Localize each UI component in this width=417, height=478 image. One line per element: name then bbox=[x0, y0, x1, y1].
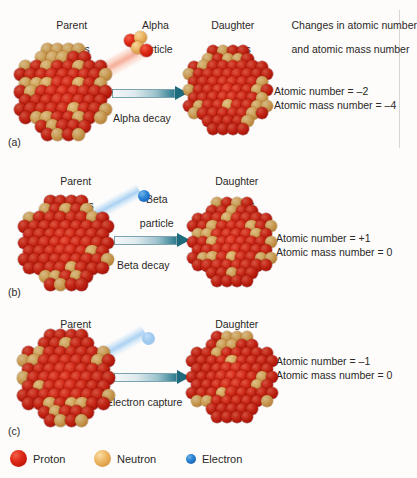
panel-a-tag: (a) bbox=[8, 136, 21, 148]
arrow-bar bbox=[112, 89, 175, 98]
nucleon-proton bbox=[241, 275, 253, 287]
alpha-decay-arrow bbox=[112, 88, 188, 99]
nucleon-proton bbox=[97, 397, 110, 410]
parent-nucleus-beta bbox=[16, 196, 116, 290]
neutron-sphere-icon bbox=[94, 450, 111, 467]
panel-a-parent-line1: Parent bbox=[56, 19, 87, 31]
panel-a-daughter-line1: Daughter bbox=[211, 19, 254, 31]
nucleus-sphere-cluster bbox=[182, 46, 274, 134]
nucleon-proton bbox=[260, 259, 272, 271]
legend-item-electron: Electron bbox=[186, 453, 242, 465]
nucleon-proton bbox=[241, 411, 253, 423]
nucleus-sphere-cluster bbox=[12, 44, 114, 140]
panel-b-emission-line2: particle bbox=[140, 217, 174, 229]
panel-b-atomic-number-change: Atomic number = +1 bbox=[276, 232, 371, 244]
nucleus-sphere-cluster bbox=[186, 198, 278, 286]
daughter-nucleus-beta bbox=[186, 198, 278, 286]
legend-item-neutron: Neutron bbox=[94, 450, 156, 467]
panel-b-tag: (b) bbox=[8, 286, 21, 298]
legend-label-neutron: Neutron bbox=[117, 453, 156, 465]
panel-c-tag: (c) bbox=[8, 425, 20, 437]
changes-title-line2: and atomic mass number bbox=[292, 43, 410, 55]
nucleus-sphere-cluster bbox=[186, 332, 278, 422]
panel-b-daughter-line1: Daughter bbox=[215, 175, 258, 187]
parent-nucleus-capture bbox=[16, 330, 116, 426]
panel-a-emission-line1: Alpha bbox=[142, 19, 169, 31]
nucleon-neutron bbox=[94, 111, 107, 124]
arrow-bar bbox=[114, 373, 177, 382]
panel-b-parent-line1: Parent bbox=[60, 175, 91, 187]
nucleon-proton bbox=[256, 107, 268, 119]
nucleon-proton bbox=[75, 278, 88, 291]
alpha-proton-2 bbox=[140, 44, 153, 57]
daughter-nucleus-alpha bbox=[182, 46, 274, 134]
nucleon-neutron bbox=[72, 128, 85, 141]
alpha-particle bbox=[124, 31, 154, 59]
panel-a-atomic-number-change: Atomic number = –2 bbox=[274, 85, 368, 97]
proton-sphere-icon bbox=[10, 450, 27, 467]
panel-a-atomic-mass-change: Atomic mass number = –4 bbox=[274, 99, 396, 111]
panel-c-atomic-mass-change: Atomic mass number = 0 bbox=[276, 369, 392, 381]
beta-particle bbox=[138, 190, 150, 202]
nucleus-sphere-cluster bbox=[16, 330, 116, 426]
changes-title-line1: Changes in atomic number bbox=[292, 19, 417, 31]
legend-label-proton: Proton bbox=[33, 453, 65, 465]
panel-c-parent-line1: Parent bbox=[60, 318, 91, 330]
nucleon-neutron bbox=[75, 414, 88, 427]
beta-decay-arrow bbox=[114, 235, 190, 246]
nucleon-neutron bbox=[261, 395, 273, 407]
legend-label-electron: Electron bbox=[202, 453, 242, 465]
panel-b-atomic-mass-change: Atomic mass number = 0 bbox=[276, 246, 392, 258]
electron-capture-arrow bbox=[114, 372, 190, 383]
nucleus-sphere-cluster bbox=[16, 196, 116, 290]
arrow-bar bbox=[114, 236, 177, 245]
nucleon-proton bbox=[96, 262, 109, 275]
panel-c-daughter-line1: Daughter bbox=[215, 318, 258, 330]
electron-sphere-icon bbox=[186, 454, 196, 464]
changes-column-title: Changes in atomic number and atomic mass… bbox=[274, 7, 406, 67]
panel-c-atomic-number-change: Atomic number = –1 bbox=[276, 355, 370, 367]
legend: Proton Neutron Electron bbox=[0, 446, 412, 478]
nucleon-proton bbox=[237, 123, 249, 135]
captured-electron bbox=[142, 332, 155, 345]
parent-nucleus-alpha bbox=[12, 44, 114, 140]
legend-item-proton: Proton bbox=[10, 450, 65, 467]
daughter-nucleus-capture bbox=[186, 332, 278, 422]
